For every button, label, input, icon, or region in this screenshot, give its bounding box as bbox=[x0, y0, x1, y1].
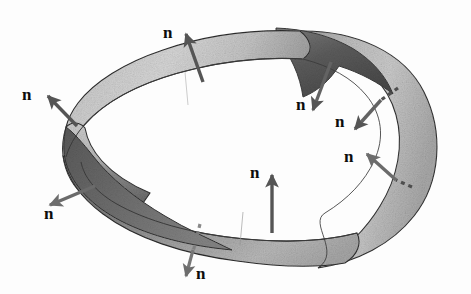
normal-label-inner-upper-right: n bbox=[296, 96, 305, 113]
normal-label-inner-lower-right: n bbox=[344, 148, 353, 165]
normal-inner-right bbox=[355, 88, 398, 129]
normal-label-upper-left: n bbox=[22, 86, 31, 103]
normal-label-inner-right: n bbox=[335, 113, 344, 130]
mobius-strip-illustration bbox=[0, 0, 471, 294]
strip-top-band bbox=[66, 31, 310, 157]
mobius-surface bbox=[63, 28, 437, 268]
strip-seam-left bbox=[185, 72, 188, 105]
normal-label-top: n bbox=[163, 24, 172, 41]
mobius-strip-figure: n n n n n n n n bbox=[0, 0, 471, 294]
arrow-shaft bbox=[186, 250, 193, 276]
normal-label-bottom: n bbox=[196, 265, 205, 282]
normal-label-lower-left: n bbox=[44, 205, 53, 222]
normal-label-inner-bottom: n bbox=[250, 164, 259, 181]
